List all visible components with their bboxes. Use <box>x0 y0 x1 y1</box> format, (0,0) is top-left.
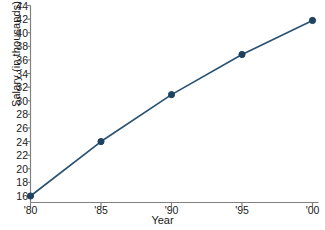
data-point-95 <box>239 51 245 57</box>
data-point-80 <box>27 193 33 199</box>
x-axis-title: Year <box>0 214 325 226</box>
data-point-00 <box>309 17 315 23</box>
series-line-salary <box>31 20 313 196</box>
data-point-85 <box>98 138 104 144</box>
salary-line-chart: Salary (in thousands) 444240383634323028… <box>0 0 325 230</box>
data-point-90 <box>168 92 174 98</box>
plot-area <box>0 0 325 230</box>
